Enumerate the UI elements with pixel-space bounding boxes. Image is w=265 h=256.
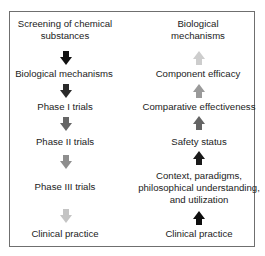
down-arrow-icon [60,209,72,223]
right-step-biological-mechanisms: Biologicalmechanisms [171,18,225,42]
left-step-screening-line2: substances [41,30,90,41]
right-step-comparative-effectiveness: Comparative effectiveness [143,101,256,113]
left-step-phase-1: Phase I trials [37,101,92,113]
left-step-biological-mechanisms: Biological mechanisms [15,68,113,80]
down-arrow-icon [60,84,72,98]
left-step-clinical-practice: Clinical practice [31,228,98,240]
right-step-context-line3: and utilization [170,194,229,205]
down-arrow-icon [60,51,72,65]
up-arrow-icon [193,211,205,225]
right-step-component-efficacy: Component efficacy [156,68,241,80]
diagram-frame [9,11,255,247]
down-arrow-icon [60,117,72,131]
right-step-safety-status: Safety status [171,136,226,148]
left-step-screening-line1: Screening of chemical [18,18,112,29]
up-arrow-icon [193,51,205,65]
up-arrow-icon [193,116,205,130]
left-step-phase-3: Phase III trials [35,181,96,193]
right-step-context: Context, paradigms,philosophical underst… [138,170,260,206]
right-step-context-line2: philosophical understanding, [138,182,260,193]
left-step-phase-2: Phase II trials [36,136,94,148]
right-step-biological-mechanisms-line1: Biological [177,18,218,29]
right-step-biological-mechanisms-line2: mechanisms [171,30,225,41]
down-arrow-icon [60,155,72,169]
right-step-clinical-practice: Clinical practice [165,228,232,240]
right-step-context-line1: Context, paradigms, [156,170,242,181]
up-arrow-icon [193,151,205,165]
right-step-safety-status-text: Safety status [171,136,226,147]
left-step-screening: Screening of chemicalsubstances [18,18,112,42]
up-arrow-icon [193,84,205,98]
